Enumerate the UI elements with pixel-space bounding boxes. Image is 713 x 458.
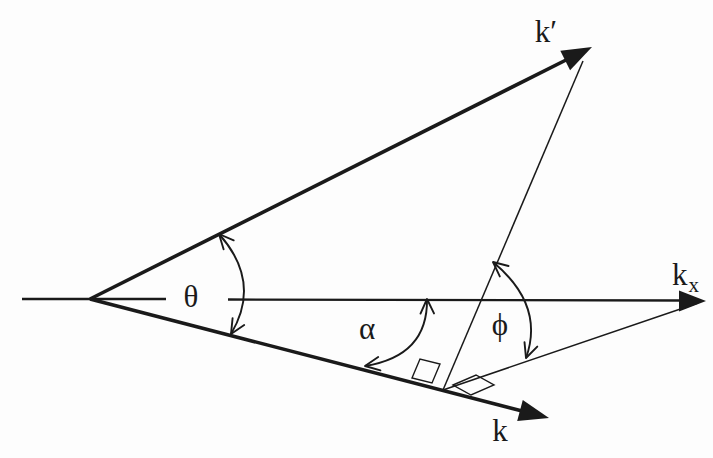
- figure-canvas: θ α ϕ k′ k kx: [0, 0, 713, 458]
- k-arrowhead-icon: [517, 400, 549, 421]
- kx-label-subscript: x: [689, 273, 700, 297]
- projection-line: [443, 303, 698, 390]
- phi-label: ϕ: [492, 307, 508, 342]
- k-label: k: [492, 413, 508, 448]
- kx-label: kx: [672, 257, 700, 297]
- kx-axis-line: [228, 300, 684, 301]
- k-prime-label: k′: [535, 14, 557, 49]
- alpha-label: α: [359, 311, 375, 346]
- k-prime-vector-line: [90, 57, 572, 299]
- kx-label-base: k: [672, 257, 688, 292]
- right-angle-mark-left: [412, 359, 440, 383]
- theta-label: θ: [184, 279, 199, 314]
- scattering-diagram: θ α ϕ k′ k kx: [0, 0, 713, 458]
- k-vector-line: [90, 299, 526, 412]
- phi-arc-arrow-bottom-icon: [525, 342, 538, 358]
- k-prime-arrowhead-icon: [560, 47, 592, 70]
